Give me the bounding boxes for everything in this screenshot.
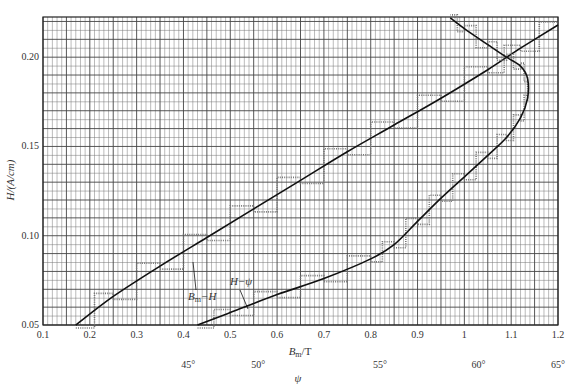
x-tick-label: 0.5 — [224, 329, 237, 340]
psi-axis-ticks: 45°50°55°60°65° — [181, 359, 565, 370]
x-tick-label: 0.8 — [364, 329, 377, 340]
x-tick-label: 0.2 — [84, 329, 97, 340]
x-tick-label: 0.6 — [271, 329, 284, 340]
x-tick-label: 1.1 — [505, 329, 518, 340]
bm-h-label: Bm−H — [188, 290, 217, 304]
psi-tick-label: 60° — [471, 359, 485, 370]
bm-h-leader — [193, 262, 196, 290]
y-axis-title: H/(A/cm) — [4, 159, 17, 201]
x-tick-label: 0.9 — [411, 329, 424, 340]
x-tick-label: 0.7 — [318, 329, 331, 340]
chart-canvas: 0.10.20.30.40.50.60.70.80.911.11.2 0.050… — [0, 0, 576, 389]
y-tick-label: 0.10 — [22, 230, 40, 241]
psi-tick-label: 50° — [251, 359, 265, 370]
x-tick-label: 0.3 — [130, 329, 143, 340]
bm-h-curve — [76, 25, 558, 325]
psi-tick-label: 45° — [181, 359, 195, 370]
x-axis-ticks: 0.10.20.30.40.50.60.70.80.911.11.2 — [37, 329, 565, 340]
h-psi-leader — [240, 290, 248, 309]
h-psi-label: H−ψ — [229, 275, 252, 287]
y-tick-label: 0.20 — [22, 51, 40, 62]
y-tick-label: 0.05 — [22, 319, 40, 330]
x-tick-label: 1.2 — [552, 329, 565, 340]
psi-tick-label: 65° — [551, 359, 565, 370]
x-tick-label: 0.4 — [177, 329, 190, 340]
psi-axis-title: ψ — [295, 372, 302, 384]
series-layer — [76, 15, 558, 328]
x-tick-label: 1 — [462, 329, 467, 340]
psi-tick-label: 55° — [373, 359, 387, 370]
x-tick-label: 0.1 — [37, 329, 50, 340]
bm-h-staircase — [76, 22, 558, 328]
y-tick-label: 0.15 — [22, 140, 40, 151]
y-axis-ticks: 0.050.100.150.20 — [22, 51, 40, 330]
chart: 0.10.20.30.40.50.60.70.80.911.11.2 0.050… — [0, 0, 576, 389]
x-axis-title: Bm/T — [289, 345, 312, 359]
